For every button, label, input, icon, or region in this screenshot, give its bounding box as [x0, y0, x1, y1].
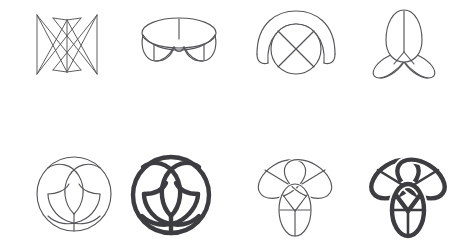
figure-face-on-trefoil-in-circle-bold [128, 152, 214, 238]
wireframe-chords [37, 15, 97, 74]
figure-shallow-tilt-banded-ring [138, 14, 220, 76]
figure-three-lobed-trefoil-thin [252, 154, 338, 238]
figure-edge-on-collapsed-wireframe [33, 12, 101, 78]
figure-board [0, 0, 463, 252]
over-crossing-arcs-bold [396, 195, 420, 211]
figure-three-lobed-trefoil-bold [364, 153, 452, 239]
figure-tilted-disc-with-arch [253, 8, 339, 80]
figure-side-tilt-three-petal [370, 8, 438, 82]
interior-seams [48, 184, 100, 231]
over-crossing-arcs [283, 195, 307, 211]
inner-seams [143, 19, 215, 60]
figure-face-on-trefoil-in-circle-thin [34, 154, 114, 234]
lobe-interior-seams [265, 170, 325, 236]
lobe-interior-seams-bold [378, 170, 438, 236]
